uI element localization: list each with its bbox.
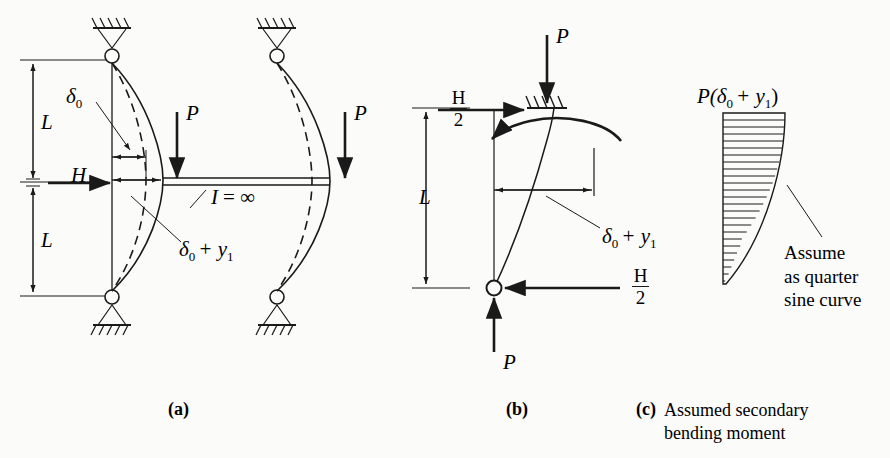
moment-P-term: P( — [697, 84, 717, 108]
delta0-symbol: δ — [66, 84, 76, 108]
figure-root: L L H P P δ0 δ0+ y1 I= ∞ L H 2 H 2 P P δ… — [0, 0, 890, 458]
note-line-3: sine curve — [784, 288, 862, 312]
label-H-a: H — [71, 163, 86, 188]
note-quarter-sine-c: Assume as quarter sine curve — [784, 241, 862, 312]
caption-a: (a) — [168, 399, 189, 420]
caption-c-line-1: Assumed secondary — [664, 399, 808, 422]
label-L-upper-a: L — [41, 110, 53, 135]
caption-b: (b) — [506, 399, 528, 420]
moment-delta-symbol: δ — [717, 84, 727, 108]
delta0-subscript: 0 — [76, 96, 83, 111]
shear-bottom-numerator: H — [632, 266, 649, 285]
label-H-over-2-top-b: H 2 — [450, 88, 467, 129]
shear-top-denominator: 2 — [450, 110, 467, 129]
label-P-right-a: P — [354, 101, 367, 126]
shear-bottom-denominator: 2 — [632, 288, 649, 307]
moment-of-inertia-value: = ∞ — [218, 185, 255, 209]
note-line-1: Assume — [784, 241, 862, 265]
label-P-bottom-b: P — [503, 350, 516, 375]
y1-term-a: + y — [195, 237, 227, 261]
y1-subscript-b: 1 — [650, 236, 657, 251]
moment-of-inertia-symbol: I — [211, 185, 218, 209]
label-L-b: L — [419, 185, 431, 210]
caption-c: (c) Assumed secondary bending moment — [636, 399, 808, 445]
pin-bottom-b — [487, 281, 502, 296]
engineering-figure-svg — [0, 0, 890, 458]
label-delta0-y1-b: δ0+ y1 — [602, 224, 657, 252]
moment-y1-term: + y — [733, 84, 765, 108]
label-L-lower-a: L — [41, 228, 53, 253]
label-P-top-b: P — [556, 24, 569, 49]
y1-term-b: + y — [618, 224, 650, 248]
caption-c-marker: (c) — [636, 399, 656, 420]
moment-close-paren: ) — [771, 84, 778, 108]
label-moment-magnitude-c: P(δ0+ y1) — [697, 84, 778, 112]
note-line-2: as quarter — [784, 265, 862, 289]
delta-symbol-a: δ — [179, 237, 189, 261]
delta-symbol-b: δ — [602, 224, 612, 248]
caption-c-line-2: bending moment — [664, 422, 808, 445]
shear-top-numerator: H — [450, 88, 467, 107]
y1-subscript-a: 1 — [227, 249, 234, 264]
label-rigid-beam-a: I= ∞ — [211, 185, 255, 210]
label-H-over-2-bottom-b: H 2 — [632, 266, 649, 307]
figure-background — [0, 0, 890, 458]
label-P-left-a: P — [186, 101, 199, 126]
label-delta0-y1-a: δ0+ y1 — [179, 237, 234, 265]
label-delta0-a: δ0 — [66, 84, 82, 112]
